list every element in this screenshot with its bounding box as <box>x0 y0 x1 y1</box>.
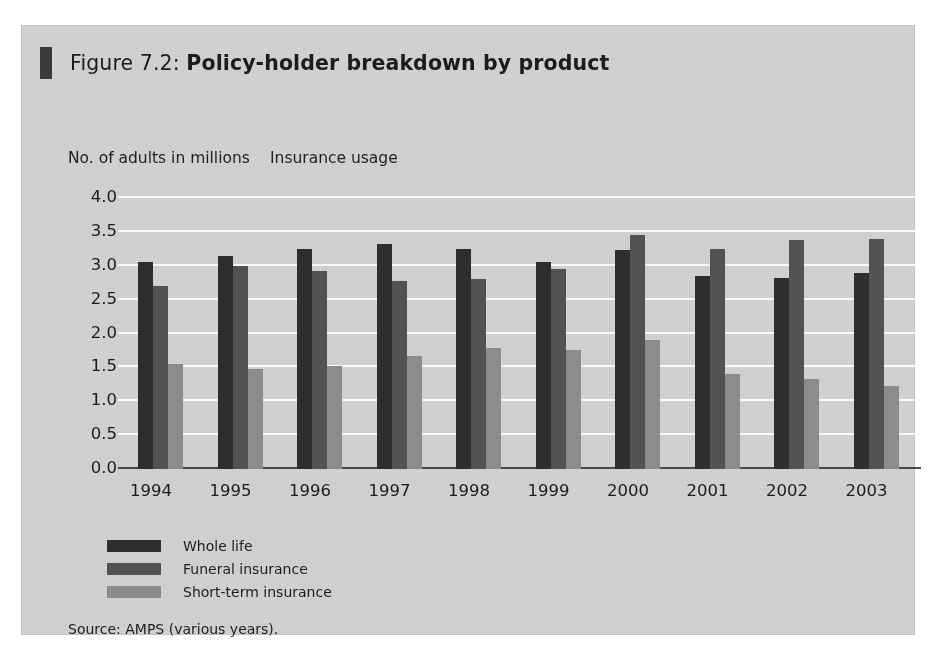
x-axis-tick-label: 2001 <box>683 481 763 500</box>
bar[interactable] <box>312 271 327 470</box>
y-axis-tick-label: 2.0 <box>91 322 117 341</box>
x-axis-tick-label: 1998 <box>444 481 524 500</box>
bar[interactable] <box>233 266 248 469</box>
bar[interactable] <box>377 244 392 469</box>
figure-number: Figure 7.2: <box>70 51 186 75</box>
plot-caption: Insurance usage <box>270 149 398 167</box>
bar[interactable] <box>218 256 233 469</box>
bar[interactable] <box>804 379 819 469</box>
bar-groups: 1994199519961997199819992000200120022003 <box>126 198 921 469</box>
bar[interactable] <box>297 249 312 469</box>
bar[interactable] <box>789 240 804 469</box>
x-axis-tick-label: 1995 <box>206 481 286 500</box>
bar[interactable] <box>774 278 789 469</box>
y-axis-tick-mark <box>118 365 126 367</box>
x-axis-tick-label: 1997 <box>365 481 445 500</box>
legend-item[interactable]: Whole life <box>107 534 332 557</box>
y-axis-tick-label: 1.5 <box>91 356 117 375</box>
bar[interactable] <box>456 249 471 469</box>
y-axis-tick-mark <box>118 264 126 266</box>
legend-swatch <box>107 540 161 552</box>
bar[interactable] <box>138 262 153 469</box>
bar-group: 2002 <box>762 198 842 469</box>
bar-group: 1999 <box>524 198 604 469</box>
y-axis-tick-mark <box>118 433 126 435</box>
bar[interactable] <box>566 350 581 469</box>
y-axis-tick-mark <box>118 467 126 469</box>
bar[interactable] <box>407 356 422 469</box>
y-axis-tick-label: 4.0 <box>91 187 117 206</box>
bar[interactable] <box>695 276 710 469</box>
bar-group: 2000 <box>603 198 683 469</box>
y-axis-caption: No. of adults in millions <box>68 149 250 167</box>
legend-swatch <box>107 586 161 598</box>
bar[interactable] <box>854 273 869 469</box>
bar[interactable] <box>630 235 645 469</box>
y-axis-tick-label: 1.0 <box>91 390 117 409</box>
page-title: Figure 7.2: Policy-holder breakdown by p… <box>70 51 609 75</box>
source-note: Source: AMPS (various years). <box>68 621 278 637</box>
x-axis-tick-label: 1999 <box>524 481 604 500</box>
bar-group: 2003 <box>842 198 922 469</box>
figure-title-row: Figure 7.2: Policy-holder breakdown by p… <box>40 46 609 80</box>
bar-group: 1995 <box>206 198 286 469</box>
y-axis-tick-mark <box>118 196 126 198</box>
bar[interactable] <box>615 250 630 469</box>
y-axis-tick-label: 2.5 <box>91 288 117 307</box>
bar-group: 1996 <box>285 198 365 469</box>
y-axis-tick-label: 3.0 <box>91 254 117 273</box>
y-axis-tick-mark <box>118 332 126 334</box>
figure-title: Policy-holder breakdown by product <box>186 51 609 75</box>
bar-group: 1997 <box>365 198 445 469</box>
bar[interactable] <box>153 286 168 469</box>
x-axis-tick-label: 2003 <box>842 481 922 500</box>
bar[interactable] <box>392 281 407 469</box>
legend-swatch <box>107 563 161 575</box>
x-axis-tick-label: 1994 <box>126 481 206 500</box>
x-axis-tick-label: 1996 <box>285 481 365 500</box>
x-axis-tick-label: 2000 <box>603 481 683 500</box>
legend-label: Funeral insurance <box>183 561 308 577</box>
figure-page: Figure 7.2: Policy-holder breakdown by p… <box>0 0 946 665</box>
bar[interactable] <box>471 279 486 469</box>
chart-legend: Whole lifeFuneral insuranceShort-term in… <box>107 534 332 603</box>
y-axis-tick-mark <box>118 230 126 232</box>
bar[interactable] <box>536 262 551 469</box>
bar[interactable] <box>168 364 183 469</box>
legend-label: Whole life <box>183 538 253 554</box>
chart-inner: 4.03.53.02.52.01.51.00.50.0 199419951996… <box>126 198 921 469</box>
legend-item[interactable]: Funeral insurance <box>107 557 332 580</box>
chart-plot-area: 4.03.53.02.52.01.51.00.50.0 199419951996… <box>126 190 921 477</box>
y-axis-tick-label: 0.5 <box>91 424 117 443</box>
figure-card: Figure 7.2: Policy-holder breakdown by p… <box>22 26 914 634</box>
bar[interactable] <box>551 269 566 469</box>
bar-group: 1998 <box>444 198 524 469</box>
bar[interactable] <box>645 340 660 469</box>
bar[interactable] <box>725 374 740 469</box>
bar[interactable] <box>884 386 899 469</box>
bar[interactable] <box>869 239 884 469</box>
bar-group: 1994 <box>126 198 206 469</box>
legend-item[interactable]: Short-term insurance <box>107 580 332 603</box>
y-axis-tick-label: 0.0 <box>91 458 117 477</box>
bar[interactable] <box>248 369 263 469</box>
y-axis-tick-mark <box>118 399 126 401</box>
bar[interactable] <box>327 366 342 469</box>
y-axis-tick-mark <box>118 298 126 300</box>
title-marker-block <box>40 47 52 79</box>
bar-group: 2001 <box>683 198 763 469</box>
y-axis-tick-label: 3.5 <box>91 220 117 239</box>
bar[interactable] <box>710 249 725 469</box>
x-axis-tick-label: 2002 <box>762 481 842 500</box>
bar[interactable] <box>486 348 501 469</box>
legend-label: Short-term insurance <box>183 584 332 600</box>
